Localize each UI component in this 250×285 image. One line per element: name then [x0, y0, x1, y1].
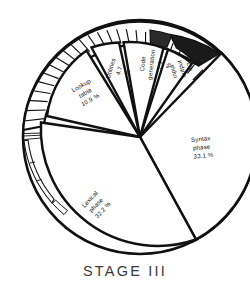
label-value: 7.1 — [156, 60, 164, 70]
pie-chart-svg: Syntax phase 33.1 % Lexical phase 32.2 %… — [0, 0, 250, 285]
chart-title: STAGE III — [0, 263, 250, 279]
pie-chart-figure: Syntax phase 33.1 % Lexical phase 32.2 %… — [0, 0, 250, 285]
pie-label-syntax-phase: Syntax phase 33.1 % — [191, 134, 215, 160]
svg-text:Syntax phase 3: Syntax phase 33.1 % — [191, 134, 215, 160]
